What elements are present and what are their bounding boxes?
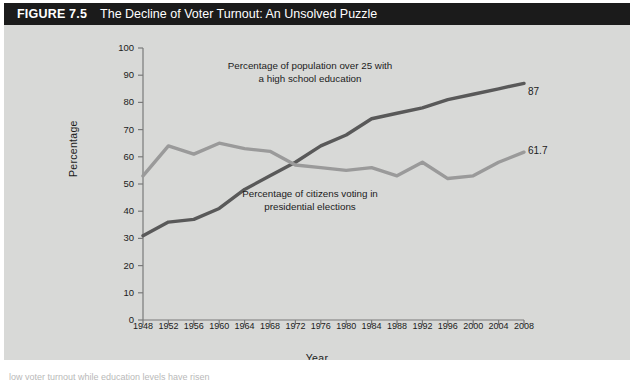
y-tick-label: 50 (108, 178, 134, 189)
figure-title: The Decline of Voter Turnout: An Unsolve… (100, 7, 377, 21)
caption-strip: low voter turnout while education levels… (4, 360, 630, 385)
line-turnout-series (143, 143, 524, 178)
annotation-education-series: Percentage of population over 25 with a … (190, 60, 430, 85)
y-tick-label: 90 (108, 69, 134, 80)
y-tick-label: 100 (108, 42, 134, 53)
figure-number-label: FIGURE 7.5 (17, 7, 87, 21)
y-tick-label: 30 (108, 232, 134, 243)
figure-title-bar: FIGURE 7.5 The Decline of Voter Turnout:… (4, 3, 630, 25)
y-axis-label: Percentage (67, 120, 79, 177)
page-edge-right (630, 0, 634, 385)
y-tick-label: 10 (108, 287, 134, 298)
caption-text-partial: low voter turnout while education levels… (9, 372, 625, 381)
end-label-turnout: 61.7 (528, 145, 547, 156)
y-tick-label: 40 (108, 205, 134, 216)
y-tick-label: 60 (108, 151, 134, 162)
y-tick-label: 80 (108, 96, 134, 107)
y-tick-label: 70 (108, 124, 134, 135)
annotation-turnout-series: Percentage of citizens voting in preside… (190, 188, 430, 213)
end-label-education: 87 (528, 86, 539, 97)
x-tick-label: 2008 (509, 321, 539, 331)
y-tick-label: 20 (108, 260, 134, 271)
chart-area: Percentage Year 0102030405060708090100 1… (4, 25, 630, 360)
figure-container: FIGURE 7.5 The Decline of Voter Turnout:… (0, 0, 634, 385)
